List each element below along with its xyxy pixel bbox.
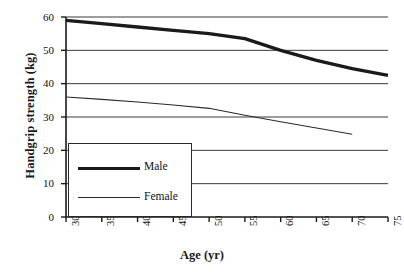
x-axis-tick-label: 75 xyxy=(393,216,404,227)
legend-swatch-male xyxy=(78,167,140,170)
legend-label-female: Female xyxy=(144,190,178,202)
x-axis-title: Age (yr) xyxy=(0,248,404,263)
x-axis-tick-label: 70 xyxy=(357,216,368,227)
x-axis-tick-label: 65 xyxy=(321,216,332,227)
legend-item-male: Male xyxy=(69,158,193,178)
plot-area xyxy=(0,0,404,272)
y-axis-tick-label: 60 xyxy=(28,12,54,23)
x-axis-tick-label: 40 xyxy=(142,216,153,227)
legend-swatch-female xyxy=(78,197,140,198)
x-axis-tick-label: 45 xyxy=(178,216,189,227)
x-axis-tick-label: 50 xyxy=(214,216,225,227)
cropped-caption-bottom xyxy=(0,266,404,272)
y-axis-tick-label: 0 xyxy=(28,212,54,223)
chart-legend: Male Female xyxy=(68,143,192,217)
x-axis-tick-label: 60 xyxy=(285,216,296,227)
handgrip-strength-chart: 0102030405060 30354045505560657075 Handg… xyxy=(0,0,404,272)
y-axis-title: Handgrip strength (kg) xyxy=(23,26,38,206)
x-axis-tick-label: 55 xyxy=(249,216,260,227)
legend-item-female: Female xyxy=(69,188,193,208)
x-axis-tick-label: 30 xyxy=(71,216,82,227)
legend-label-male: Male xyxy=(144,160,168,172)
series-line-female xyxy=(66,97,352,134)
x-axis-tick-label: 35 xyxy=(106,216,117,227)
series-line-male xyxy=(66,20,388,75)
